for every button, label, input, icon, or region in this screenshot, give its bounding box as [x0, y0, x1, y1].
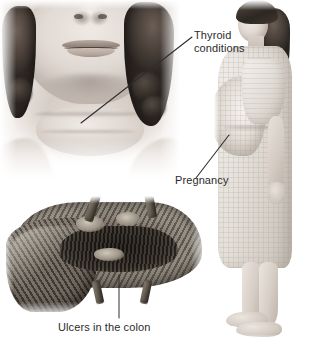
neck-panel-edge-fade [0, 0, 180, 180]
label-thyroid-line1: Thyroid [194, 29, 245, 42]
label-thyroid-conditions: Thyroid conditions [194, 29, 245, 55]
label-pregnancy: Pregnancy [175, 174, 229, 187]
thyroid-neck-illustration [0, 0, 180, 180]
colon-illustration [2, 196, 207, 316]
medical-illustration-figure: Thyroid conditions Pregnancy Ulcers in t… [0, 0, 321, 341]
label-thyroid-line2: conditions [194, 42, 245, 55]
colon-panel-edge-fade [2, 196, 207, 316]
label-ulcers-in-the-colon: Ulcers in the colon [58, 321, 150, 334]
